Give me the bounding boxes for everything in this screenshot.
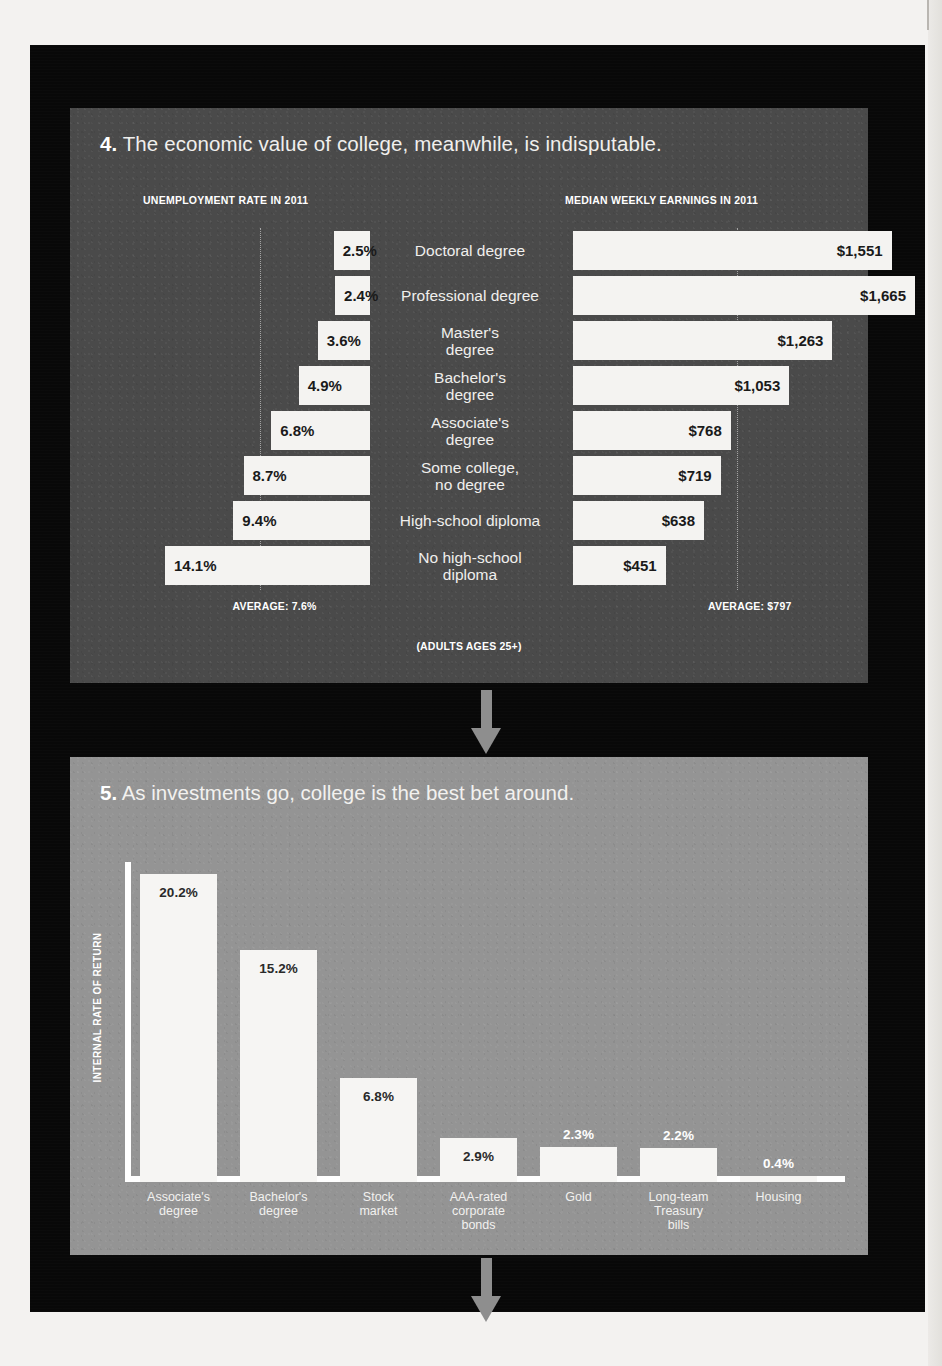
unemployment-bar: 3.6%: [318, 321, 370, 360]
earnings-bar: $1,551: [573, 231, 892, 270]
unemployment-value: 6.8%: [280, 422, 314, 439]
bar-row: 3.6%Master'sdegree$1,263: [70, 318, 868, 363]
earnings-bar: $451: [573, 546, 666, 585]
panel-4-number: 4.: [100, 132, 117, 155]
unemployment-bar: 8.7%: [244, 456, 370, 495]
panel-5: 5. As investments go, college is the bes…: [70, 757, 868, 1255]
panel-5-title-text: As investments go, college is the best b…: [122, 781, 574, 804]
column: 20.2%Associate'sdegree: [140, 874, 217, 1182]
column-value: 20.2%: [140, 885, 217, 900]
bar-row: 2.4%Professional degree$1,665: [70, 273, 868, 318]
earnings-value: $768: [688, 422, 721, 439]
earnings-value: $719: [678, 467, 711, 484]
earnings-value: $1,263: [778, 332, 824, 349]
category-label: Master'sdegree: [375, 318, 565, 363]
right-column-header: MEDIAN WEEKLY EARNINGS IN 2011: [565, 194, 758, 206]
category-label: High-school diploma: [375, 498, 565, 543]
earnings-bar: $1,053: [573, 366, 789, 405]
column-value: 0.4%: [740, 1156, 817, 1171]
unemployment-bar: 14.1%: [165, 546, 370, 585]
category-label: Some college,no degree: [375, 453, 565, 498]
column-value: 2.9%: [440, 1149, 517, 1164]
bar-rows: 2.5%Doctoral degree$1,5512.4%Professiona…: [70, 228, 868, 588]
unemployment-bar: 6.8%: [271, 411, 370, 450]
category-label: No high-schooldiploma: [375, 543, 565, 588]
column: 2.3%Gold: [540, 1147, 617, 1182]
unemployment-bar: 2.5%: [334, 231, 370, 270]
unemployment-value: 8.7%: [253, 467, 287, 484]
arrow-stem: [481, 1258, 492, 1298]
infographic-page: 4. The economic value of college, meanwh…: [0, 0, 942, 1366]
arrow-head: [471, 1296, 501, 1322]
column-bar: [740, 1176, 817, 1182]
bar-row: 9.4%High-school diploma$638: [70, 498, 868, 543]
column-label: Bachelor'sdegree: [231, 1190, 326, 1218]
unemployment-value: 9.4%: [242, 512, 276, 529]
column-label: Gold: [531, 1190, 626, 1204]
unemployment-bar: 4.9%: [299, 366, 370, 405]
left-column-header: UNEMPLOYMENT RATE IN 2011: [143, 194, 308, 206]
arrow-stem: [481, 690, 492, 730]
column-bar: [240, 950, 317, 1182]
panel-5-number: 5.: [100, 781, 117, 804]
earnings-value: $1,551: [837, 242, 883, 259]
bar-row: 2.5%Doctoral degree$1,551: [70, 228, 868, 273]
earnings-bar: $638: [573, 501, 704, 540]
unemployment-bar: 9.4%: [233, 501, 370, 540]
left-average-label: AVERAGE: 7.6%: [232, 600, 316, 612]
column-label: Long-teamTreasurybills: [631, 1190, 726, 1232]
earnings-value: $638: [662, 512, 695, 529]
right-average-label: AVERAGE: $797: [708, 600, 792, 612]
paper-edge-mark: [927, 0, 929, 30]
panel-4-footnote: (ADULTS AGES 25+): [70, 640, 868, 652]
unemployment-value: 2.5%: [343, 242, 377, 259]
column: 2.9%AAA-ratedcorporatebonds: [440, 1138, 517, 1182]
column-label: Associate'sdegree: [131, 1190, 226, 1218]
earnings-bar: $768: [573, 411, 731, 450]
bar-row: 14.1%No high-schooldiploma$451: [70, 543, 868, 588]
bar-row: 4.9%Bachelor'sdegree$1,053: [70, 363, 868, 408]
earnings-bar: $1,263: [573, 321, 832, 360]
unemployment-bar: 2.4%: [335, 276, 370, 315]
y-axis-line: [125, 862, 131, 1182]
unemployment-value: 3.6%: [327, 332, 361, 349]
unemployment-value: 4.9%: [308, 377, 342, 394]
column: 2.2%Long-teamTreasurybills: [640, 1148, 717, 1182]
earnings-value: $1,665: [860, 287, 906, 304]
bar-row: 8.7%Some college,no degree$719: [70, 453, 868, 498]
unemployment-value: 14.1%: [174, 557, 217, 574]
column-value: 15.2%: [240, 961, 317, 976]
y-axis-title: INTERNAL RATE OF RETURN: [92, 923, 103, 1093]
earnings-value: $1,053: [734, 377, 780, 394]
column: 15.2%Bachelor'sdegree: [240, 950, 317, 1182]
column-value: 2.3%: [540, 1127, 617, 1142]
column-bar: [540, 1147, 617, 1182]
column: 6.8%Stockmarket: [340, 1078, 417, 1182]
column: 0.4%Housing: [740, 1176, 817, 1182]
unemployment-value: 2.4%: [344, 287, 378, 304]
bar-row: 6.8%Associate'sdegree$768: [70, 408, 868, 453]
category-label: Associate'sdegree: [375, 408, 565, 453]
column-label: Stockmarket: [331, 1190, 426, 1218]
column-bar: [640, 1148, 717, 1182]
earnings-bar: $1,665: [573, 276, 915, 315]
panel-4: 4. The economic value of college, meanwh…: [70, 108, 868, 683]
column-value: 2.2%: [640, 1128, 717, 1143]
column-label: Housing: [731, 1190, 826, 1204]
panel-4-title: 4. The economic value of college, meanwh…: [100, 132, 662, 156]
column-bar: [140, 874, 217, 1182]
category-label: Bachelor'sdegree: [375, 363, 565, 408]
earnings-bar: $719: [573, 456, 721, 495]
column-chart: 20.2%Associate'sdegree15.2%Bachelor'sdeg…: [140, 862, 840, 1182]
category-label: Doctoral degree: [375, 228, 565, 273]
panel-4-title-text: The economic value of college, meanwhile…: [123, 132, 662, 155]
earnings-value: $451: [623, 557, 656, 574]
panel-5-title: 5. As investments go, college is the bes…: [100, 781, 574, 805]
paper-edge: [928, 0, 942, 1366]
column-label: AAA-ratedcorporatebonds: [431, 1190, 526, 1232]
arrow-head: [471, 728, 501, 754]
column-value: 6.8%: [340, 1089, 417, 1104]
category-label: Professional degree: [375, 273, 565, 318]
